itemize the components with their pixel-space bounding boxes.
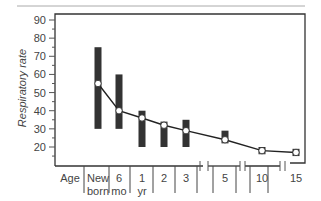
x-category-label: 10 [256,172,268,184]
range-bar [116,74,123,128]
mean-point [139,115,145,121]
x-category-label: 1 [139,172,145,184]
x-category-label: 2 [161,172,167,184]
x-axis: Newborn6mo1yr2351015 [55,161,302,197]
x-category-label: born [87,185,109,197]
y-axis: 2030405060708090 [34,14,55,156]
mean-line [98,84,296,153]
y-tick-label: 40 [34,105,46,117]
y-tick-label: 70 [34,50,46,62]
range-bar [95,47,102,129]
frame-border [55,14,305,166]
y-axis-label: Respiratory rate [16,49,28,127]
plot-frame [55,14,305,166]
mean-point [116,108,122,114]
x-category-label: 3 [183,172,189,184]
range-bars [95,47,300,156]
mean-point [183,127,189,133]
x-category-label: yr [137,185,147,197]
mean-line-path [98,84,296,153]
x-category-label: 6 [116,172,122,184]
y-tick-label: 50 [34,87,46,99]
mean-point [259,147,265,153]
x-category-label: New [87,172,109,184]
mean-point [95,80,101,86]
mean-point [222,137,228,143]
x-axis-label: Age [60,172,80,184]
y-tick-label: 90 [34,14,46,26]
x-category-label: 15 [290,172,302,184]
y-tick-label: 60 [34,68,46,80]
x-category-label: 5 [222,172,228,184]
mean-points [95,80,299,155]
y-tick-label: 20 [34,141,46,153]
mean-point [293,149,299,155]
respiratory-rate-chart: 2030405060708090 Respiratory rate Newbor… [0,0,321,201]
mean-point [161,122,167,128]
x-category-label: mo [111,185,126,197]
y-tick-label: 80 [34,32,46,44]
y-tick-label: 30 [34,123,46,135]
